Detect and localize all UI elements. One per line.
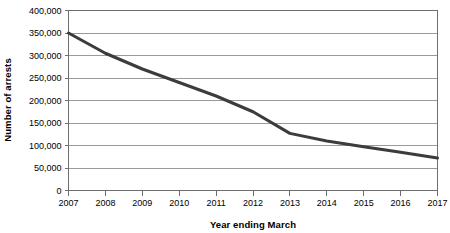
y-axis-tick-label: 300,000 <box>29 51 62 61</box>
y-axis-tick-label: 350,000 <box>29 28 62 38</box>
x-axis-tick-label: 2009 <box>132 198 152 208</box>
y-axis-tick-label: 50,000 <box>34 163 62 173</box>
x-axis-tick-label: 2013 <box>280 198 300 208</box>
x-axis-tick-label: 2017 <box>427 198 447 208</box>
x-axis-tick-label: 2011 <box>206 198 225 208</box>
x-axis-tick-label: 2016 <box>391 198 411 208</box>
y-axis-tick-labels: 050,000100,000150,000200,000250,000300,0… <box>29 6 62 196</box>
y-axis-tick-label: 100,000 <box>29 141 62 151</box>
y-axis-title: Number of arrests <box>2 58 13 142</box>
y-axis-ticks <box>65 11 69 191</box>
y-axis-tick-label: 150,000 <box>29 118 62 128</box>
y-axis-tick-label: 200,000 <box>29 96 62 106</box>
chart-canvas: 050,000100,000150,000200,000250,000300,0… <box>0 0 450 233</box>
x-axis-tick-label: 2014 <box>317 198 337 208</box>
x-axis-tick-label: 2008 <box>95 198 115 208</box>
y-axis-tick-label: 400,000 <box>29 6 62 16</box>
y-axis-tick-label: 250,000 <box>29 73 62 83</box>
x-axis-tick-label: 2015 <box>354 198 374 208</box>
line-chart: 050,000100,000150,000200,000250,000300,0… <box>0 0 450 233</box>
y-axis-tick-label: 0 <box>56 186 61 196</box>
x-axis-tick-labels: 2007200820092010201120122013201420152016… <box>58 198 447 208</box>
x-axis-tick-label: 2010 <box>169 198 189 208</box>
x-axis-tick-label: 2007 <box>58 198 78 208</box>
x-axis-title: Year ending March <box>210 219 296 230</box>
x-axis-tick-label: 2012 <box>243 198 263 208</box>
x-axis-ticks <box>69 191 438 196</box>
